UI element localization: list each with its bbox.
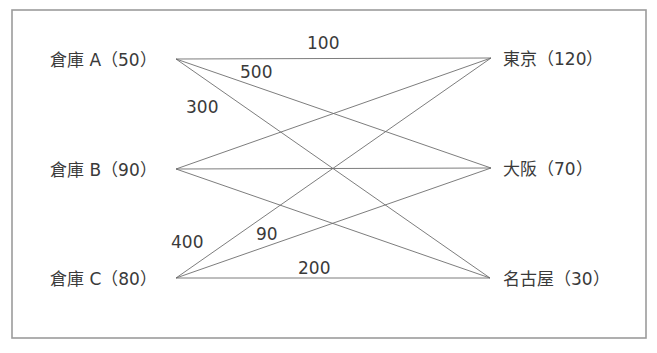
- cost-label-c-tokyo: 400: [171, 232, 203, 252]
- edge-b-tokyo: [176, 58, 491, 169]
- destination-label-osaka: 大阪（70）: [503, 159, 593, 179]
- cost-label-a-tokyo: 100: [307, 33, 339, 53]
- cost-label-a-nagoya: 300: [186, 97, 218, 117]
- warehouse-label-c: 倉庫 C（80）: [50, 269, 157, 289]
- transportation-network-diagram: 10050030040090200 倉庫 A（50）倉庫 B（90）倉庫 C（8…: [0, 0, 657, 353]
- cost-label-c-nagoya: 200: [298, 258, 330, 278]
- destination-labels-group: 東京（120）大阪（70）名古屋（30）: [503, 49, 610, 289]
- edges-group: [176, 58, 491, 278]
- destination-label-tokyo: 東京（120）: [503, 49, 603, 69]
- destination-label-nagoya: 名古屋（30）: [503, 269, 610, 289]
- edge-a-tokyo: [176, 58, 491, 59]
- cost-label-c-osaka: 90: [256, 224, 278, 244]
- cost-label-a-osaka: 500: [240, 62, 272, 82]
- warehouse-label-a: 倉庫 A（50）: [50, 50, 157, 70]
- warehouse-labels-group: 倉庫 A（50）倉庫 B（90）倉庫 C（80）: [50, 50, 157, 289]
- warehouse-label-b: 倉庫 B（90）: [50, 160, 157, 180]
